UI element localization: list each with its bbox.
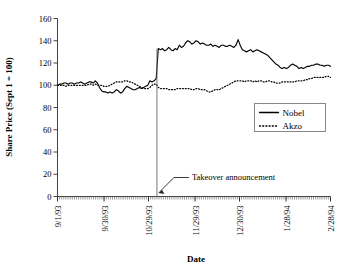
x-axis-tick-label: 9/30/93	[100, 206, 110, 232]
y-axis-tick-label: 160	[39, 14, 52, 24]
x-axis-tick-label: 2/28/94	[326, 205, 336, 232]
x-axis-title: Date	[187, 254, 205, 264]
annotation-leader-line	[160, 178, 189, 192]
chart-figure: 0204060801001201401609/1/939/30/9310/29/…	[0, 0, 338, 270]
legend-label-nobel: Nobel	[283, 108, 305, 118]
y-axis-tick-label: 100	[39, 80, 52, 90]
y-axis-tick-label: 60	[43, 125, 52, 135]
x-axis-tick-label: 12/30/93	[235, 206, 245, 236]
data-series-group	[58, 40, 331, 93]
x-axis-tick-label: 1/28/94	[282, 205, 292, 232]
y-axis-tick-label: 140	[39, 36, 52, 46]
y-axis-tick-label: 0	[47, 192, 51, 202]
y-axis-tick-label: 40	[43, 147, 52, 157]
y-axis-tick-label: 120	[39, 58, 52, 68]
annotation-label-takeover: Takeover announcement	[192, 172, 276, 182]
x-axis-tick-label: 9/1/93	[53, 206, 63, 228]
x-axis-tick-label: 10/29/93	[144, 206, 154, 236]
y-axis-title: Share Price (Sept 1 = 100)	[4, 57, 14, 157]
share-price-line-chart: 0204060801001201401609/1/939/30/9310/29/…	[0, 0, 338, 270]
y-axis-tick-label: 80	[43, 103, 52, 113]
y-axis-tick-label: 20	[43, 169, 52, 179]
x-axis-tick-label: 11/29/93	[191, 206, 201, 236]
legend-label-akzo: Akzo	[283, 121, 303, 131]
chart-legend: NobelAkzo	[255, 104, 326, 132]
